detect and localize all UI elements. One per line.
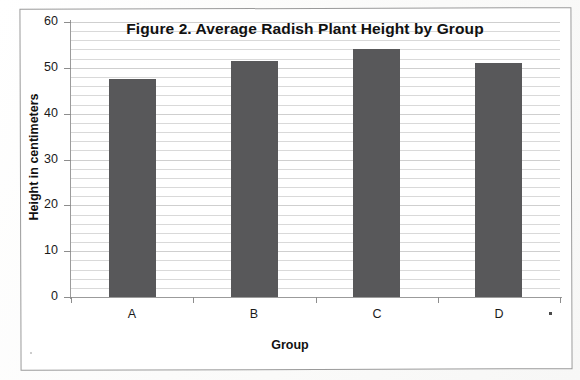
x-axis-tick — [71, 297, 72, 303]
y-axis-tick-label: 0 — [24, 289, 58, 303]
scan-speck-artifact — [549, 312, 552, 315]
y-axis-tick — [64, 114, 71, 115]
x-axis-label: Group — [230, 338, 350, 352]
x-axis-tick-label-d: D — [469, 307, 529, 321]
x-axis-tick — [193, 297, 194, 303]
bar-a — [109, 79, 156, 297]
x-axis-tick-label-b: B — [224, 307, 284, 321]
bar-c — [353, 49, 400, 297]
y-axis-tick — [64, 160, 71, 161]
scanned-chart-page: 0102030405060 ABCD Figure 2. Average Rad… — [0, 0, 580, 380]
y-axis-tick — [64, 205, 71, 206]
bar-d — [475, 63, 522, 297]
y-axis-tick — [64, 22, 71, 23]
scan-speck-artifact-2 — [30, 352, 32, 354]
gridline-minor — [71, 40, 560, 41]
y-axis-label: Height in centimeters — [27, 87, 41, 227]
y-axis-tick-label: 50 — [24, 60, 58, 74]
chart-title: Figure 2. Average Radish Plant Height by… — [95, 20, 515, 38]
y-axis-tick — [64, 297, 71, 298]
x-axis-tick — [438, 297, 439, 303]
bar-chart: 0102030405060 ABCD Figure 2. Average Rad… — [0, 0, 580, 380]
y-axis-tick — [64, 68, 71, 69]
gridline-minor — [71, 49, 560, 50]
y-axis-tick — [64, 251, 71, 252]
y-axis-tick-label: 10 — [24, 243, 58, 257]
x-axis-tick-label-c: C — [347, 307, 407, 321]
x-axis-tick-label-a: A — [102, 307, 162, 321]
x-axis-tick — [316, 297, 317, 303]
y-axis-tick-label: 60 — [24, 14, 58, 28]
bar-b — [231, 61, 278, 297]
x-axis-tick — [560, 297, 561, 303]
gridline-minor — [71, 59, 560, 60]
